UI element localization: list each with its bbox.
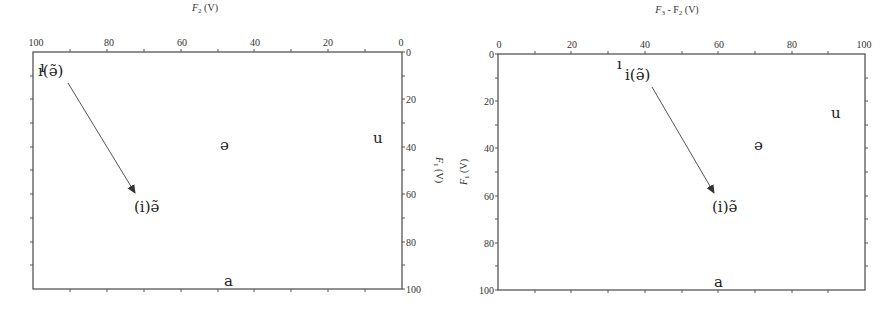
left-point-a: a: [224, 272, 233, 290]
svg-text:80: 80: [787, 39, 797, 50]
svg-text:40: 40: [484, 143, 494, 154]
svg-text:80: 80: [104, 37, 114, 48]
left-plot-frame: [33, 52, 402, 289]
left-y-ticks: [30, 52, 405, 289]
svg-text:60: 60: [714, 39, 724, 50]
right-chart: F3 - F2 (V) 0 20 40 60 80 100: [458, 4, 872, 296]
left-y-tick-labels: 0 20 40 60 80 100: [406, 47, 421, 295]
right-point-i-nasal-end: (i)ə̃: [712, 198, 738, 216]
svg-text:60: 60: [177, 37, 187, 48]
svg-text:60: 60: [484, 191, 494, 202]
right-y-ticks: [495, 54, 868, 290]
svg-text:100: 100: [29, 37, 44, 48]
svg-text:40: 40: [250, 37, 260, 48]
right-x-axis-title: F3 - F2 (V): [654, 4, 698, 17]
svg-text:80: 80: [406, 237, 416, 248]
svg-text:20: 20: [484, 96, 494, 107]
svg-text:40: 40: [406, 142, 416, 153]
svg-text:100: 100: [406, 284, 421, 295]
svg-text:0: 0: [399, 37, 404, 48]
left-transition-arrow: [68, 83, 135, 193]
left-y-axis-title: F1 (V): [432, 156, 445, 183]
svg-text:0: 0: [497, 39, 502, 50]
svg-text:0: 0: [489, 49, 494, 60]
right-x-ticks: [535, 51, 828, 293]
formant-charts: F2 (V) 100 80 60 40 20 0: [0, 0, 891, 310]
left-point-u: u: [373, 129, 383, 147]
left-point-schwa: ə: [220, 136, 229, 154]
svg-text:60: 60: [406, 189, 416, 200]
svg-text:20: 20: [406, 94, 416, 105]
left-x-axis-title: F2 (V): [191, 2, 218, 15]
right-y-tick-labels: 0 20 40 60 80 100: [479, 49, 494, 296]
svg-text:20: 20: [567, 39, 577, 50]
left-chart: F2 (V) 100 80 60 40 20 0: [29, 2, 446, 295]
right-point-u: u: [831, 104, 841, 122]
right-point-schwa: ə: [754, 136, 763, 154]
svg-text:100: 100: [857, 39, 872, 50]
svg-text:100: 100: [479, 285, 494, 296]
left-x-tick-labels: 100 80 60 40 20 0: [29, 37, 404, 48]
right-point-i-nasal: i(ə̃): [625, 66, 650, 84]
right-x-tick-labels: 0 20 40 60 80 100: [497, 39, 872, 50]
svg-text:80: 80: [484, 238, 494, 249]
left-point-i-nasal: ı(ə̃): [38, 62, 63, 80]
right-point-a: a: [714, 273, 723, 291]
left-x-ticks: [70, 49, 365, 292]
left-point-i-nasal-end: (i)ə̃: [134, 198, 160, 216]
svg-text:0: 0: [406, 47, 411, 58]
right-y-axis-title: F1 (V): [458, 159, 471, 186]
right-plot-frame: [498, 54, 865, 290]
svg-text:40: 40: [640, 39, 650, 50]
right-point-i-marker: ı: [617, 55, 622, 73]
right-transition-arrow: [652, 87, 714, 193]
svg-text:20: 20: [323, 37, 333, 48]
